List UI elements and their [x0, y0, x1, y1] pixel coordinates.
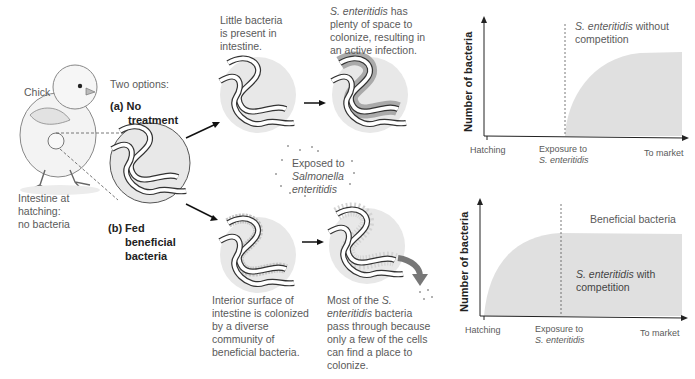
intestine-circle-initial [110, 123, 190, 203]
infection-caption-line4: an active infection. [330, 44, 417, 57]
intestine-circle-little-bacteria [220, 57, 296, 133]
exposed-caption-line1: Exposed to [292, 157, 345, 170]
pass-through-caption-line1: Most of the S. [327, 294, 392, 307]
exposed-caption-line2: Salmonella [292, 170, 344, 183]
arrow-bottom-row [302, 239, 324, 245]
top-chart-x-label-market: To market [644, 147, 684, 160]
little-bacteria-line3: intestine. [220, 40, 262, 53]
chick-label: Chick [24, 86, 50, 99]
bottom-chart-x-label-hatching: Hatching [465, 324, 501, 337]
colonized-caption-line1: Interior surface of [212, 294, 294, 307]
colonized-caption-line4: community of [212, 333, 274, 346]
top-chart-x-label-hatching: Hatching [470, 144, 506, 157]
colonized-caption-line2: intestine is colonized [212, 307, 309, 320]
bottom-chart-annotation-line2: competition [576, 281, 630, 294]
intestine-circle-active-infection [332, 57, 408, 133]
arrow-top-row [304, 100, 326, 106]
intestine-at-hatching-line1: Intestine at [18, 192, 69, 205]
infection-caption-line2: plenty of space to [330, 18, 412, 31]
arrow-to-no-treatment [186, 122, 220, 138]
bottom-chart-x-label-market: To market [640, 327, 680, 340]
bottom-chart-y-axis-label: Number of bacteria [458, 212, 470, 312]
pass-through-caption-line4: only a few of the cells [327, 333, 427, 346]
bottom-chart-annotation-line1: S. enteritidis with [576, 268, 655, 281]
infection-caption-line1: S. enteritidis has [330, 5, 408, 18]
bottom-chart-x-label-exposure-line1: Exposure to [535, 324, 583, 335]
arrow-to-fed-bacteria [186, 204, 218, 221]
option-b-line2: beneficial [125, 236, 176, 249]
option-a-line2: treatment [128, 114, 178, 127]
intestine-at-hatching-line2: hatching: [18, 205, 61, 218]
pass-through-caption-line3: pass through because [327, 320, 430, 333]
option-b-line1: (b) Fed [108, 222, 145, 235]
option-b-line3: bacteria [125, 250, 167, 263]
pass-through-caption-line2: enteritidis bacteria [327, 307, 412, 320]
intestine-circle-beneficial-colonized [220, 217, 296, 293]
intestine-circle-pass-through [329, 208, 405, 284]
bottom-chart-annotation-beneficial: Beneficial bacteria [590, 213, 676, 226]
bottom-chart-x-label-exposure-line2: S. enteritidis [535, 335, 585, 346]
top-chart-annotation-line1: S. enteritidis without [575, 20, 669, 33]
chick-illustration [20, 65, 100, 195]
colonized-caption-line5: beneficial bacteria. [212, 346, 300, 359]
two-options-label: Two options: [110, 78, 169, 91]
infection-caption-line3: colonize, resulting in [330, 31, 425, 44]
option-a-line1: (a) No [110, 100, 141, 113]
pass-through-caption-line5: can find a place to [327, 346, 412, 359]
top-chart-x-label-exposure-line2: S. enteritidis [539, 155, 589, 166]
little-bacteria-line1: Little bacteria [220, 14, 282, 27]
top-chart-y-axis-label: Number of bacteria [462, 32, 474, 132]
pass-through-caption-line6: colonize. [327, 359, 368, 372]
intestine-at-hatching-line3: no bacteria [18, 218, 70, 231]
top-chart-x-label-exposure-line1: Exposure to [539, 144, 587, 155]
exposed-caption-line3: enteritidis [292, 183, 337, 196]
little-bacteria-line2: is present in [220, 27, 277, 40]
colonized-caption-line3: by a diverse [212, 320, 269, 333]
top-chart-annotation-line2: competition [575, 33, 629, 46]
